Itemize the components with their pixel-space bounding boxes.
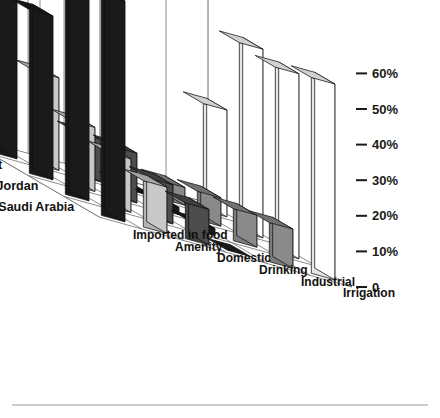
- chart-3d-bar: 010%20%30%40%50%60% LibyaEgyptJordanSaud…: [0, 0, 440, 418]
- row-label-saudi-arabia: Saudi Arabia: [0, 200, 75, 214]
- axis-tick-label: 40%: [372, 137, 398, 152]
- column-label-industrial: Industrial: [301, 275, 355, 289]
- bar-side-face: [315, 72, 335, 280]
- bar-side-face: [105, 0, 125, 222]
- bar-side-face: [243, 37, 263, 237]
- axis-tick-label: 10%: [372, 244, 398, 259]
- bar-libya-imported-in-food: [0, 0, 17, 159]
- bar-side-face: [33, 4, 53, 180]
- row-label-jordan: Jordan: [0, 179, 38, 193]
- axis-tick-label: 20%: [372, 208, 398, 223]
- axis-tick-label: 60%: [372, 66, 398, 81]
- bar-side-face: [69, 0, 89, 201]
- chart-canvas: 010%20%30%40%50%60% LibyaEgyptJordanSaud…: [0, 0, 440, 418]
- column-label-domestic: Domestic: [217, 251, 271, 265]
- axis-tick-label: 30%: [372, 173, 398, 188]
- bar-side-face: [0, 0, 17, 159]
- axis-tick-label: 50%: [372, 102, 398, 117]
- column-label-imported-in-food: Imported in food: [133, 228, 228, 242]
